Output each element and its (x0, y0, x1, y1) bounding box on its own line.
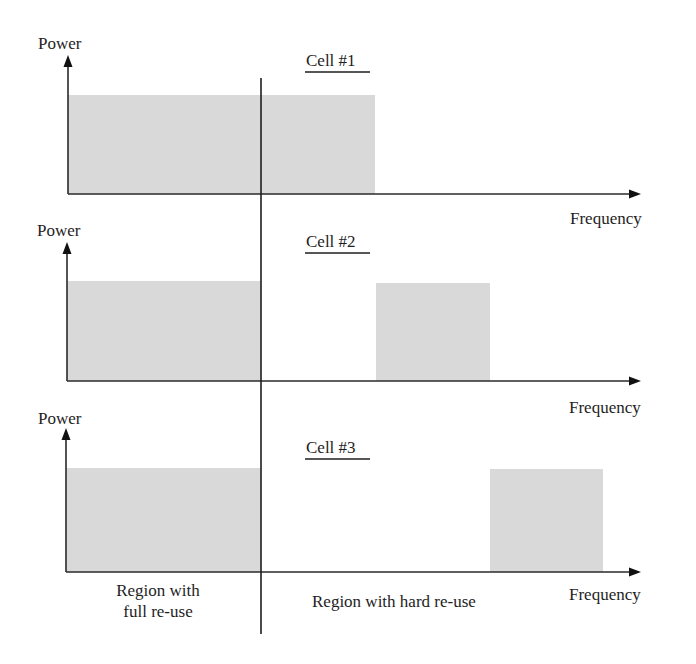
frequency-reuse-diagram: Power Cell #1 Frequency Power Cell #2 Fr… (0, 0, 696, 664)
cell-3-x-axis-arrow-icon (629, 568, 641, 577)
cell-3-title: Cell #3 (306, 438, 356, 457)
cell-2-band-2 (376, 283, 490, 381)
cell-2-band-1 (67, 281, 261, 381)
cell-2-y-axis-arrow-icon (63, 242, 72, 254)
cell-1-title: Cell #1 (306, 51, 356, 70)
cell-1-band-1 (68, 95, 375, 194)
cell-2-title: Cell #2 (306, 232, 356, 251)
cell-1-y-label: Power (38, 34, 82, 53)
full-reuse-region-label-line-1: Region with (116, 581, 200, 600)
cell-1-x-axis-arrow-icon (629, 190, 641, 199)
cell-3-band-2 (490, 469, 603, 572)
cell-2-y-label: Power (37, 221, 81, 240)
full-reuse-region-label-line-2: full re-use (123, 602, 192, 621)
cell-2-x-label: Frequency (569, 398, 641, 417)
cell-1-x-label: Frequency (570, 209, 642, 228)
cell-3-y-label: Power (38, 409, 82, 428)
panel-cell-2: Power Cell #2 Frequency (37, 221, 641, 417)
cell-2-x-axis-arrow-icon (629, 377, 641, 386)
cell-3-band-1 (66, 468, 261, 572)
cell-3-y-axis-arrow-icon (62, 428, 71, 440)
panel-cell-3: Power Cell #3 Frequency (38, 409, 641, 604)
panel-cell-1: Power Cell #1 Frequency (38, 34, 642, 228)
hard-reuse-region-label: Region with hard re-use (312, 592, 476, 611)
cell-1-y-axis-arrow-icon (64, 55, 73, 67)
cell-3-x-label: Frequency (569, 585, 641, 604)
